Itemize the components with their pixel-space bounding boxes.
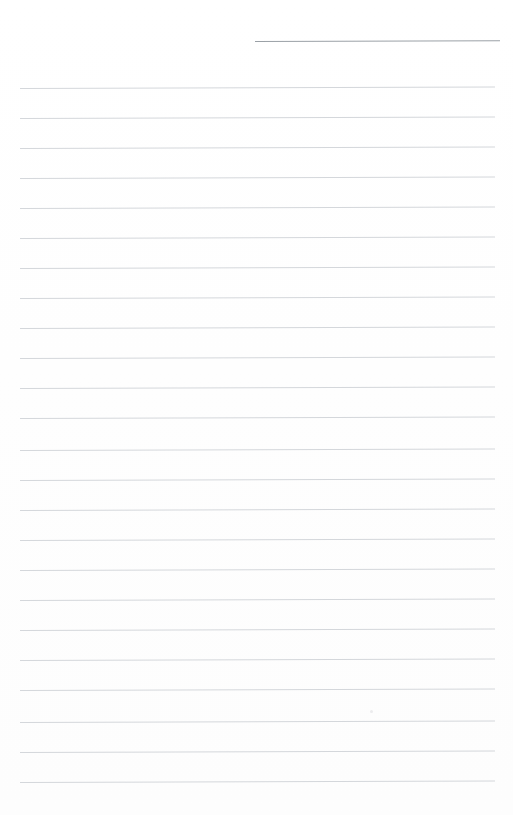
write-zone[interactable] xyxy=(20,544,495,570)
write-zone[interactable] xyxy=(20,454,495,480)
write-zone[interactable] xyxy=(20,604,495,630)
write-zone[interactable] xyxy=(20,122,495,148)
write-zone[interactable] xyxy=(20,212,495,238)
write-zone[interactable] xyxy=(20,514,495,540)
write-zone[interactable] xyxy=(20,182,495,208)
write-zone[interactable] xyxy=(20,62,495,88)
write-zone[interactable] xyxy=(20,392,495,418)
write-zone[interactable] xyxy=(20,92,495,118)
notepad-page xyxy=(0,0,513,815)
write-zone[interactable] xyxy=(20,726,495,752)
write-zone[interactable] xyxy=(20,574,495,600)
write-zone[interactable] xyxy=(20,302,495,328)
write-zone[interactable] xyxy=(20,152,495,178)
write-zone[interactable] xyxy=(20,362,495,388)
write-zone[interactable] xyxy=(20,756,495,782)
write-zone[interactable] xyxy=(20,242,495,268)
write-zone[interactable] xyxy=(20,484,495,510)
write-zone[interactable] xyxy=(20,696,495,722)
write-zone[interactable] xyxy=(20,272,495,298)
write-zone[interactable] xyxy=(20,332,495,358)
write-zone[interactable] xyxy=(20,664,495,690)
write-zone[interactable] xyxy=(20,634,495,660)
date-write-zone[interactable] xyxy=(255,21,500,41)
write-zone[interactable] xyxy=(20,424,495,450)
